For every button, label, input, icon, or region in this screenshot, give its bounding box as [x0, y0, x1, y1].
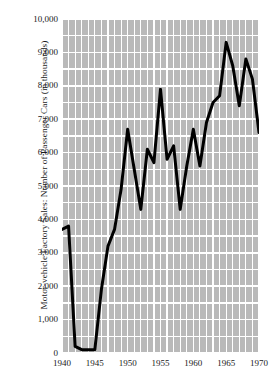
y-tick-label: 10,000 [2, 15, 58, 24]
data-line-series [62, 19, 259, 353]
y-axis-tick-labels: 01,0002,0003,0004,0005,0006,0007,0008,00… [0, 0, 58, 389]
y-tick-label: 4,000 [2, 215, 58, 224]
y-tick-label: 0 [2, 349, 58, 358]
y-tick-label: 1,000 [2, 315, 58, 324]
chart-figure: Motor-vehicle Factory Sales: Number of P… [0, 0, 276, 389]
y-tick-label: 6,000 [2, 148, 58, 157]
plot-area [62, 19, 259, 353]
y-tick-label: 2,000 [2, 282, 58, 291]
x-tick-label: 1970 [239, 358, 276, 368]
x-axis-tick-labels: 1940194519501955196019651970 [0, 358, 276, 378]
series-line [62, 42, 259, 349]
y-tick-label: 3,000 [2, 248, 58, 257]
y-tick-label: 9,000 [2, 48, 58, 57]
y-tick-label: 7,000 [2, 115, 58, 124]
y-tick-label: 8,000 [2, 81, 58, 90]
y-tick-label: 5,000 [2, 182, 58, 191]
